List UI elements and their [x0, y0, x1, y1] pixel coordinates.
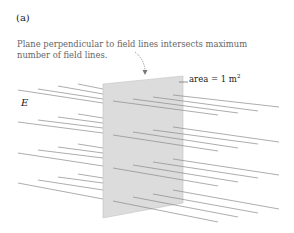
perpendicular-plane	[103, 76, 183, 218]
field-diagram	[0, 0, 294, 233]
caption-arrow	[135, 52, 145, 72]
caption-arrow-head-icon	[143, 70, 148, 75]
field-lines-left	[18, 84, 103, 199]
